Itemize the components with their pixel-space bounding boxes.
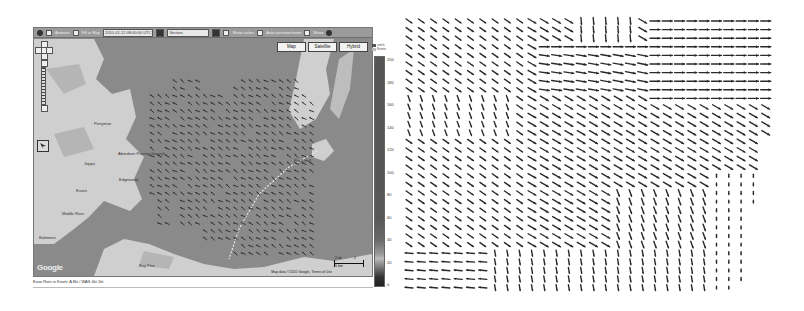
zoom-slider[interactable] bbox=[41, 67, 46, 105]
scale-bottom-label: 5 km bbox=[335, 264, 343, 268]
scale-top-label: 2 mi bbox=[335, 256, 342, 260]
play-icon[interactable] bbox=[37, 30, 43, 36]
place-label: Edgewood bbox=[119, 177, 138, 182]
zoom-out-button[interactable] bbox=[41, 105, 48, 112]
map-view[interactable]: Animate Fill in Map 2010-01-12 08:00:00 … bbox=[33, 27, 373, 277]
google-logo[interactable]: Google bbox=[37, 263, 63, 272]
colorbar-tick-label: 60 bbox=[387, 215, 391, 220]
map-type-map-button[interactable]: Map bbox=[277, 42, 306, 52]
info-icon[interactable] bbox=[326, 30, 332, 36]
vector-field bbox=[405, 18, 771, 291]
show-label: Show bbox=[313, 30, 323, 35]
divider bbox=[33, 287, 373, 288]
legend-label-knots: Knots bbox=[377, 47, 386, 51]
street-view-pegman-icon[interactable] bbox=[37, 140, 49, 152]
layer-dropdown-button[interactable] bbox=[212, 29, 220, 37]
colorbar-tick-label: 160 bbox=[387, 102, 394, 107]
map-canvas[interactable]: PerrymanAberdeen Proving GroundJoppaEdge… bbox=[34, 39, 372, 276]
scale-bar: 2 mi 2 5 km bbox=[334, 259, 364, 267]
speed-colorbar bbox=[374, 56, 385, 287]
datetime-field[interactable]: 2010-01-12 08:00:00 UTC bbox=[103, 29, 153, 37]
colorbar-tick-label: 40 bbox=[387, 237, 391, 242]
scale-right-label: 2 bbox=[354, 256, 356, 260]
place-label: Baltimore bbox=[39, 235, 57, 240]
animate-label: Animate bbox=[55, 30, 70, 35]
colorbar-tick-label: 20 bbox=[387, 260, 391, 265]
quiver-plot bbox=[403, 16, 778, 301]
colorbar-tick-label: 120 bbox=[387, 147, 394, 152]
pan-down-button[interactable] bbox=[41, 53, 48, 60]
colorbar-tick-label: 180 bbox=[387, 80, 394, 85]
place-label: Middle River bbox=[62, 211, 85, 216]
legend-swatch-light bbox=[372, 48, 376, 51]
zoom-in-button[interactable] bbox=[41, 60, 48, 67]
map-type-hybrid-button[interactable]: Hybrid bbox=[339, 42, 368, 52]
place-label: Rock Hall bbox=[294, 158, 311, 163]
place-label: Perryman bbox=[94, 121, 111, 126]
colorbar-legend: cm/s Knots bbox=[372, 43, 386, 51]
map-toolbar: Animate Fill in Map 2010-01-12 08:00:00 … bbox=[34, 28, 372, 38]
island-east bbox=[312, 139, 334, 161]
bay-bridge-route bbox=[229, 151, 317, 259]
map-type-control: Map Satellite Hybrid bbox=[277, 42, 368, 52]
show-colors-label: Show colors bbox=[232, 30, 254, 35]
map-type-satellite-button[interactable]: Satellite bbox=[308, 42, 337, 52]
auto-recenter-checkbox[interactable] bbox=[257, 30, 263, 36]
datetime-dropdown-button[interactable] bbox=[156, 29, 164, 37]
land-layer bbox=[34, 39, 372, 276]
peninsula-east bbox=[330, 49, 354, 119]
land-northeast bbox=[289, 39, 334, 129]
colorbar-tick-label: 80 bbox=[387, 192, 391, 197]
colorbar-tick-label: 140 bbox=[387, 125, 394, 130]
show-colors-checkbox[interactable] bbox=[223, 30, 229, 36]
fill-label: Fill in Map bbox=[82, 30, 100, 35]
place-label: Aberdeen Proving Ground bbox=[118, 151, 164, 156]
layer-select[interactable]: Vectors bbox=[167, 29, 209, 37]
colorbar-tick-label: 100 bbox=[387, 170, 394, 175]
colorbar-tick-label: 200 bbox=[387, 57, 394, 62]
map-attribution[interactable]: Map data ©2010 Google, Terms of Use bbox=[271, 270, 332, 274]
animate-checkbox[interactable] bbox=[46, 30, 52, 36]
auto-recenter-label: Auto-recenter/zoom bbox=[266, 30, 301, 35]
place-label: Bay Pine bbox=[139, 263, 156, 268]
map-footer-text: Ease Rate in Knots: A 8kt / WAS 4kt 1kt bbox=[33, 279, 103, 284]
place-label: Joppa bbox=[84, 161, 96, 166]
show-checkbox[interactable] bbox=[304, 30, 310, 36]
colorbar-tick-label: 0 bbox=[387, 282, 389, 287]
place-label: Essex bbox=[76, 188, 87, 193]
fill-checkbox[interactable] bbox=[73, 30, 79, 36]
